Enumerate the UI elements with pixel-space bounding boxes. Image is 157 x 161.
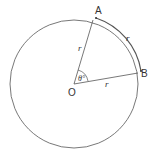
label-arc: r bbox=[126, 33, 130, 43]
label-radius-ob: r bbox=[105, 79, 109, 89]
label-a: A bbox=[95, 5, 102, 16]
label-angle: θ° bbox=[78, 74, 86, 83]
circle-sector-diagram: A B O r r r θ° bbox=[0, 0, 157, 161]
label-radius-oa: r bbox=[78, 43, 82, 53]
label-o: O bbox=[68, 87, 76, 98]
point-a-dot bbox=[95, 17, 97, 19]
label-b: B bbox=[141, 68, 148, 79]
